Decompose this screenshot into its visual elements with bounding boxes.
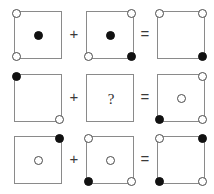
open-dot-bottom-right — [127, 177, 136, 186]
dot-puzzle-figure: +=+?=+= — [0, 0, 214, 194]
open-dot-center — [177, 94, 186, 103]
filled-dot-top-right — [198, 134, 207, 143]
open-dot-top-right — [198, 9, 207, 18]
puzzle-row-2: +?= — [0, 63, 214, 125]
open-dot-bottom-left — [12, 52, 21, 61]
plus-operator-icon: + — [66, 150, 82, 168]
open-dot-top-left — [84, 134, 93, 143]
open-dot-top-left — [155, 134, 164, 143]
filled-dot-top-left — [12, 72, 21, 81]
equals-operator-icon: = — [137, 150, 153, 168]
question-mark-icon: ? — [87, 75, 135, 123]
filled-dot-bottom-left — [155, 177, 164, 186]
filled-dot-top-right — [55, 134, 64, 143]
row2-operand-a — [14, 74, 62, 122]
row2-operand-b-unknown: ? — [86, 74, 134, 122]
puzzle-row-3: += — [0, 125, 214, 187]
open-dot-center — [106, 156, 115, 165]
row2-result — [157, 74, 205, 122]
row3-operand-b — [86, 136, 134, 184]
open-dot-bottom-left — [84, 52, 93, 61]
open-dot-top-right — [127, 9, 136, 18]
open-dot-top-left — [12, 9, 21, 18]
plus-operator-icon: + — [66, 25, 82, 43]
filled-dot-bottom-right — [198, 52, 207, 61]
filled-dot-bottom-right — [127, 52, 136, 61]
open-dot-center — [34, 156, 43, 165]
open-dot-top-right — [198, 72, 207, 81]
open-dot-top-left — [155, 9, 164, 18]
row1-operand-a — [14, 11, 62, 59]
row3-result — [157, 136, 205, 184]
puzzle-row-1: += — [0, 0, 214, 62]
equals-operator-icon: = — [137, 25, 153, 43]
row1-operand-b — [86, 11, 134, 59]
row3-operand-a — [14, 136, 62, 184]
plus-operator-icon: + — [66, 88, 82, 106]
filled-dot-bottom-left — [155, 115, 164, 124]
filled-dot-bottom-left — [84, 177, 93, 186]
equals-operator-icon: = — [137, 88, 153, 106]
open-dot-bottom-right — [198, 115, 207, 124]
open-dot-bottom-right — [55, 115, 64, 124]
open-dot-bottom-right — [198, 177, 207, 186]
row1-result — [157, 11, 205, 59]
filled-dot-center — [34, 31, 43, 40]
filled-dot-center — [106, 31, 115, 40]
